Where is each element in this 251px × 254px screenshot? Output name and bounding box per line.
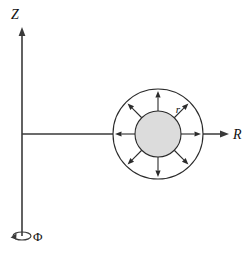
inner-source-sphere [135,111,181,157]
z-axis-group [19,27,26,236]
phi-rotation-group [11,232,32,240]
radius-label: r [176,103,181,115]
z-axis-label: Z [11,7,19,22]
z-axis-arrowhead-icon [19,27,26,36]
r-axis-arrowhead-icon [220,131,229,138]
r-axis-label: R [232,127,242,142]
phi-axis-label: Φ [33,229,43,244]
source-group [113,89,203,179]
coordinate-diagram: Z R Φ r [0,0,251,254]
diagram-canvas: Z R Φ r [0,0,251,254]
